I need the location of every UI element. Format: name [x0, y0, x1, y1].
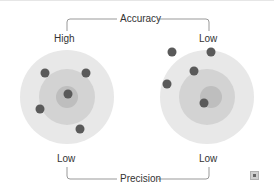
- right-target: [160, 48, 254, 145]
- accuracy-label: Accuracy: [120, 13, 161, 25]
- left-accuracy-value: High: [54, 33, 75, 45]
- accuracy-bracket-left: [67, 19, 117, 31]
- precision-bracket-left: [67, 167, 117, 179]
- accuracy-bracket-right: [158, 19, 209, 31]
- precision-label: Precision: [120, 173, 161, 185]
- left-target: [20, 50, 114, 144]
- accuracy-precision-diagram: [0, 0, 274, 193]
- right-precision-value: Low: [199, 153, 217, 165]
- right-accuracy-value: Low: [199, 33, 217, 45]
- expand-icon[interactable]: [250, 171, 259, 180]
- precision-bracket-right: [158, 167, 209, 179]
- left-precision-value: Low: [57, 153, 75, 165]
